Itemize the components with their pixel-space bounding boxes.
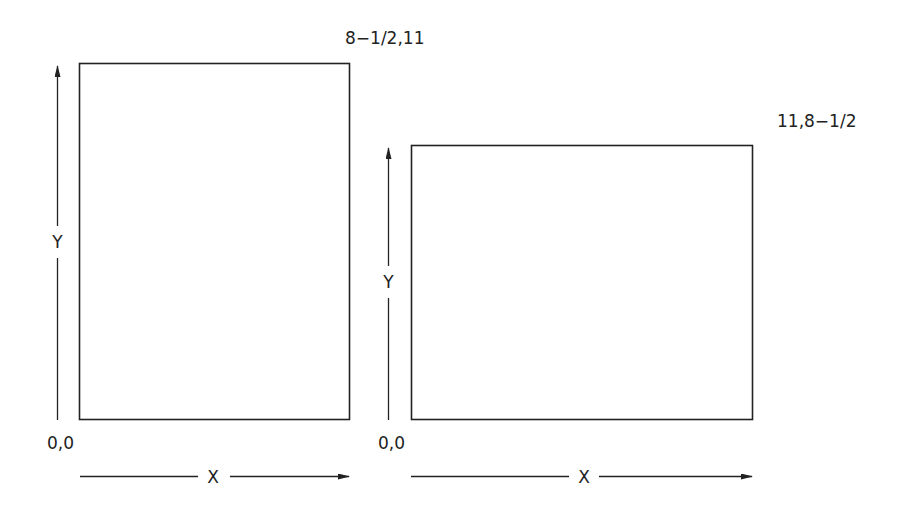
landscape-corner-label: 11,8−1/2: [777, 111, 856, 131]
landscape-sheet-rect: [412, 146, 753, 420]
portrait-origin-label: 0,0: [47, 433, 74, 453]
landscape-y-axis-label: Y: [382, 272, 394, 292]
landscape-x-axis: X: [411, 467, 752, 487]
portrait-x-axis: X: [80, 467, 349, 487]
landscape-x-axis-label: X: [578, 467, 590, 487]
portrait-y-axis-label: Y: [51, 232, 63, 252]
portrait-sheet-group: Y X 0,0 8−1/2,11: [47, 28, 424, 487]
sheet-orientation-diagram: Y X 0,0 8−1/2,11 Y X 0,0 11,8−1/2: [0, 0, 900, 510]
portrait-corner-label: 8−1/2,11: [345, 28, 424, 48]
landscape-y-axis: Y: [382, 148, 394, 420]
landscape-origin-label: 0,0: [378, 433, 405, 453]
portrait-sheet-rect: [80, 64, 350, 420]
landscape-sheet-group: Y X 0,0 11,8−1/2: [378, 111, 856, 487]
portrait-x-axis-label: X: [207, 467, 219, 487]
portrait-y-axis: Y: [51, 66, 63, 420]
